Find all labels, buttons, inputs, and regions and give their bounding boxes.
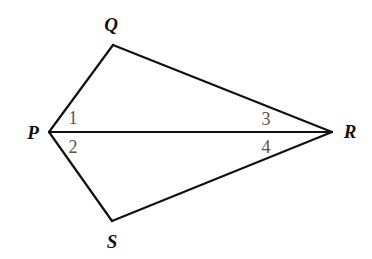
angle-label-3: 3 [262,110,271,128]
vertex-label-Q: Q [104,15,118,34]
angle-label-2: 2 [69,138,78,156]
edge-QR [113,45,332,132]
vertex-label-R: R [344,122,357,141]
figure-svg [0,0,372,259]
vertex-label-P: P [27,123,39,142]
edge-SR [112,132,332,221]
vertex-label-S: S [107,232,118,251]
edge-PS [49,132,112,221]
edge-PQ [49,45,113,132]
angle-label-1: 1 [69,109,78,127]
geometry-diagram: P Q R S 1 2 3 4 [0,0,372,259]
edge-group [49,45,332,221]
angle-label-4: 4 [262,138,271,156]
